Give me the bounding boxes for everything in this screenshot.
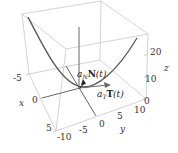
x-axis-label: x [19, 98, 24, 108]
x-tick--5: -5 [13, 73, 22, 83]
tangent-vector-label: aTT(t) [97, 89, 124, 100]
x-tick-5: 5 [46, 123, 52, 133]
z-tick-10: 10 [145, 74, 157, 84]
bounding-box [22, 1, 148, 131]
y-tick-5: 5 [117, 111, 123, 121]
y-tick-0: 0 [99, 119, 105, 129]
normal-vector-label: aNN(t) [77, 69, 107, 80]
y-tick-10: 10 [134, 105, 146, 115]
z-tick-0: 0 [144, 96, 150, 106]
3d-plot: aNN(t) aTT(t) -5 0 5 x -10 -5 0 5 10 y 0… [0, 0, 178, 153]
y-axis-label: y [119, 124, 126, 134]
x-tick-0: 0 [32, 95, 38, 105]
z-axis-label: z [163, 63, 169, 73]
y-tick--10: -10 [57, 132, 72, 142]
y-tick--5: -5 [79, 125, 88, 135]
z-tick-20: 20 [150, 47, 162, 57]
